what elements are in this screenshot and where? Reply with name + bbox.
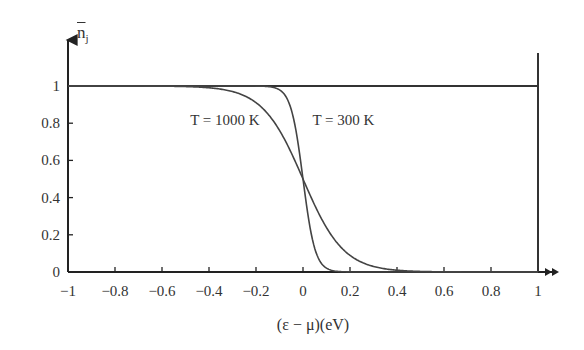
curves [68,53,538,272]
x-tick-label: −0.2 [242,283,269,299]
x-axis-arrow-icon [545,268,552,276]
x-axis-title: (ε − μ)(eV) [253,316,373,334]
x-tick-label: 0.8 [482,283,501,299]
y-axis-title-sub: j [86,32,89,44]
y-tick-label: 0.8 [41,115,60,131]
x-tick-label: −0.4 [195,283,223,299]
x-tick-label: −1 [60,283,76,299]
x-tick-label: 0.4 [388,283,407,299]
x-tick-label: 1 [534,283,542,299]
x-tick-label: −0.8 [101,283,128,299]
x-axis-arrow-icon [552,268,559,276]
y-axis-title: nj [77,23,89,44]
x-tick-label: 0.2 [341,283,360,299]
curve-300k [68,86,538,272]
fermi-dirac-chart: −1−0.8−0.6−0.4−0.200.20.40.60.8100.20.40… [0,0,584,350]
annotation-1000k: T = 1000 K [190,112,260,128]
y-tick-label: 0 [53,264,61,280]
y-tick-label: 1 [53,78,61,94]
x-tick-label: 0.6 [435,283,454,299]
y-axis-title-main: n [77,23,86,42]
annotation-300k: T = 300 K [312,112,374,128]
y-tick-label: 0.4 [41,190,60,206]
x-tick-label: −0.6 [148,283,176,299]
y-tick-label: 0.6 [41,152,60,168]
y-tick-label: 0.2 [41,227,60,243]
x-tick-label: 0 [299,283,307,299]
